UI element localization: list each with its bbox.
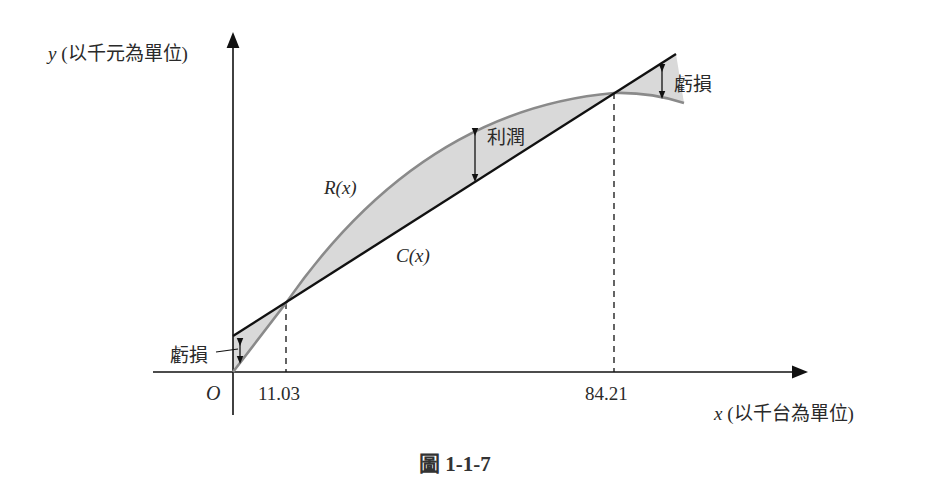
loss-label-right: 虧損 (674, 69, 712, 96)
revenue-curve (233, 93, 684, 372)
profit-label: 利潤 (487, 122, 525, 149)
y-axis-var: y (48, 43, 56, 64)
tick-label-11-03: 11.03 (258, 383, 300, 405)
cost-line (233, 54, 676, 336)
x-axis-label: x (以千台為單位) (714, 398, 854, 425)
origin-label: O (206, 382, 220, 405)
y-axis-label: y (以千元為單位) (48, 38, 188, 65)
figure-caption: 圖 1-1-7 (419, 447, 491, 477)
x-axis-var: x (714, 403, 722, 424)
x-axis-unit: (以千台為單位) (727, 403, 854, 424)
cost-line-label: C(x) (396, 245, 430, 267)
y-axis-unit: (以千元為單位) (61, 43, 188, 64)
loss-label-left: 虧損 (170, 340, 208, 367)
break-even-diagram (0, 0, 936, 503)
revenue-curve-label: R(x) (324, 177, 357, 199)
tick-label-84-21: 84.21 (585, 383, 628, 405)
